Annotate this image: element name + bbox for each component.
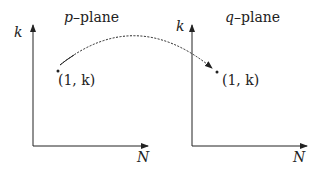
mapping-arrow bbox=[60, 36, 212, 68]
diagram: k N p–plane (1, k) k N q–plane (1, k) bbox=[0, 0, 320, 170]
q-plane-title: q–plane bbox=[225, 9, 280, 25]
p-plane-x-label: N bbox=[136, 149, 150, 165]
q-plane-point-label: (1, k) bbox=[222, 72, 259, 88]
q-plane-point bbox=[216, 71, 219, 74]
q-plane-y-label: k bbox=[176, 18, 184, 34]
p-plane-title: p–plane bbox=[64, 9, 119, 25]
p-plane-point-label: (1, k) bbox=[58, 72, 95, 88]
q-plane-x-label: N bbox=[292, 149, 306, 165]
p-plane-y-label: k bbox=[14, 24, 22, 40]
